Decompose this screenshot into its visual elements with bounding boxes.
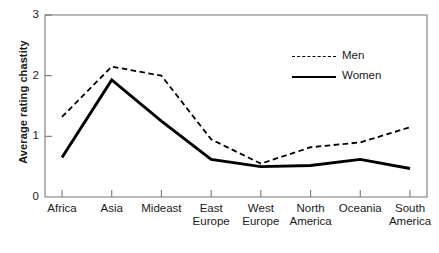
- y-tick-label: 3: [17, 9, 39, 20]
- x-tick-label: SouthAmerica: [373, 202, 439, 227]
- axes-group: [45, 15, 427, 197]
- y-tick-label: 1: [17, 130, 39, 141]
- y-tick-label: 2: [17, 70, 39, 81]
- series-group: [62, 67, 410, 169]
- legend-swatch-solid: [292, 76, 336, 78]
- legend-label-men: Men: [342, 49, 364, 61]
- y-tick-label: 0: [17, 191, 39, 202]
- legend-swatch-dashed: [292, 56, 336, 57]
- series-line-women: [62, 80, 410, 169]
- legend-label-women: Women: [342, 69, 381, 81]
- chart-container: Average rating chastity 0123 AfricaAsiaM…: [0, 0, 439, 253]
